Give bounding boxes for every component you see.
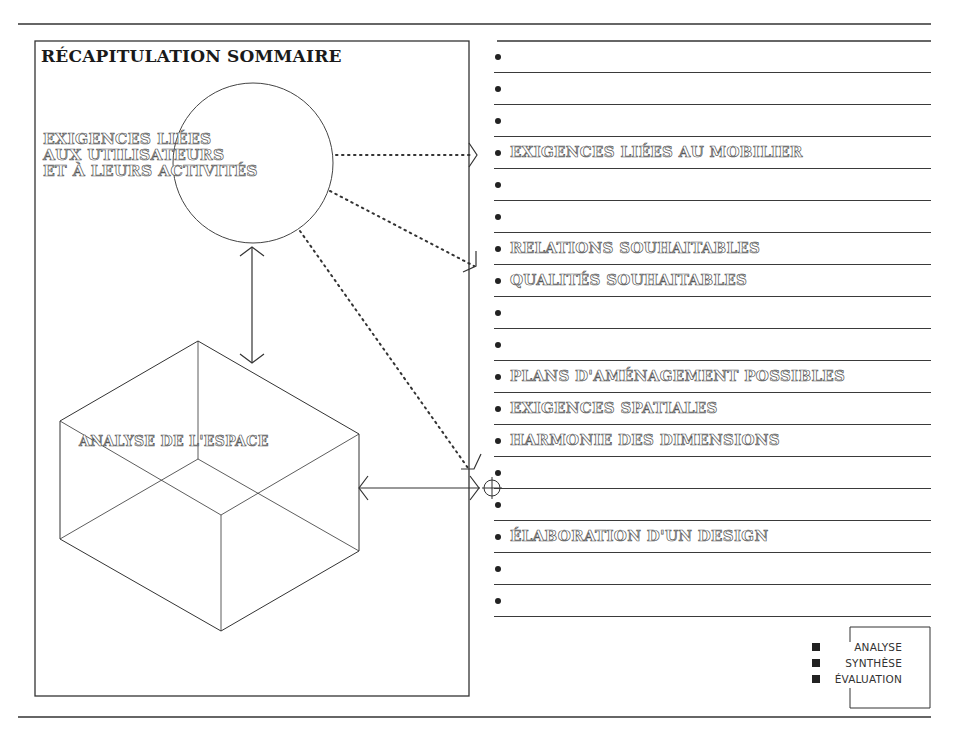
square-marker-icon	[812, 643, 820, 651]
bullet-icon	[495, 566, 501, 572]
square-marker-icon	[812, 659, 820, 667]
legend: ANALYSE SYNTHÈSE ÉVALUATION	[800, 640, 902, 688]
bullet-icon	[495, 278, 501, 284]
checklist-row: QUALITÉS SOUHAITABLES	[494, 265, 931, 297]
user-requirements-line-3: ET À LEURS ACTIVITÉS	[43, 163, 258, 179]
checklist-row: RELATIONS SOUHAITABLES	[494, 233, 931, 265]
checklist-row-label: ÉLABORATION D'UN DESIGN	[510, 527, 768, 545]
bullet-icon	[495, 150, 501, 156]
bullet-icon	[495, 438, 501, 444]
bullet-icon	[495, 182, 501, 188]
legend-item-synthese: SYNTHÈSE	[800, 656, 902, 672]
user-requirements-label: EXIGENCES LIÉES AUX UTILISATEURS ET À LE…	[43, 131, 258, 179]
checklist-row-label: QUALITÉS SOUHAITABLES	[510, 271, 747, 289]
bullet-icon	[495, 86, 501, 92]
connector-to-harmony	[300, 231, 468, 468]
bullet-icon	[495, 502, 501, 508]
connector-to-relations	[330, 191, 474, 266]
checklist-row	[494, 105, 931, 137]
checklist-row	[494, 169, 931, 201]
bullet-icon	[495, 470, 501, 476]
checklist-row: HARMONIE DES DIMENSIONS	[494, 425, 931, 457]
checklist-row: EXIGENCES SPATIALES	[494, 393, 931, 425]
bullet-icon	[495, 214, 501, 220]
checklist-row	[494, 201, 931, 233]
square-marker-icon	[812, 675, 820, 683]
checklist-row	[494, 329, 931, 361]
checklist-row: EXIGENCES LIÉES AU MOBILIER	[494, 137, 931, 169]
bullet-icon	[495, 118, 501, 124]
checklist-row-label: EXIGENCES LIÉES AU MOBILIER	[510, 143, 803, 161]
bullet-icon	[495, 342, 501, 348]
checklist: EXIGENCES LIÉES AU MOBILIER RELATIONS SO…	[494, 41, 931, 617]
bullet-icon	[495, 406, 501, 412]
checklist-row: ÉLABORATION D'UN DESIGN	[494, 521, 931, 553]
bullet-icon	[495, 598, 501, 604]
dotted-connectors	[300, 155, 474, 468]
space-analysis-cube	[60, 341, 359, 631]
checklist-row-label: RELATIONS SOUHAITABLES	[510, 239, 760, 257]
legend-item-analyse: ANALYSE	[800, 640, 902, 656]
checklist-row	[494, 585, 931, 617]
checklist-row	[494, 457, 931, 489]
legend-label: ÉVALUATION	[835, 673, 902, 685]
double-arrow-vertical	[240, 247, 264, 363]
checklist-row-label: EXIGENCES SPATIALES	[510, 399, 718, 417]
space-analysis-label: ANALYSE DE L'ESPACE	[79, 433, 269, 449]
checklist-row	[494, 297, 931, 329]
page-title: RÉCAPITULATION SOMMAIRE	[41, 46, 342, 66]
checklist-row	[494, 489, 931, 521]
legend-item-evaluation: ÉVALUATION	[800, 672, 902, 688]
checklist-row	[494, 553, 931, 585]
bullet-icon	[495, 246, 501, 252]
double-arrow-horizontal	[359, 476, 480, 500]
bullet-icon	[495, 54, 501, 60]
bullet-icon	[495, 534, 501, 540]
checklist-row-label: HARMONIE DES DIMENSIONS	[510, 431, 780, 449]
checklist-row	[494, 73, 931, 105]
legend-label: SYNTHÈSE	[845, 657, 902, 669]
bullet-icon	[495, 374, 501, 380]
checklist-row	[494, 41, 931, 73]
bullet-icon	[495, 310, 501, 316]
legend-label: ANALYSE	[854, 641, 902, 653]
checklist-row: PLANS D'AMÉNAGEMENT POSSIBLES	[494, 361, 931, 393]
checklist-row-label: PLANS D'AMÉNAGEMENT POSSIBLES	[510, 367, 845, 385]
connector-arrowheads	[461, 143, 481, 469]
